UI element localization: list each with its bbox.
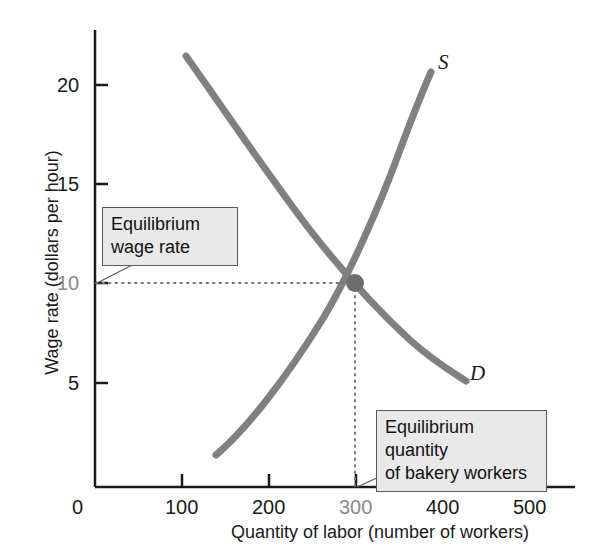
equilibrium-point-marker (346, 274, 364, 292)
x-tick-label-200: 200 (252, 496, 285, 519)
x-tick-label-500: 500 (513, 496, 546, 519)
supply-curve (216, 72, 431, 455)
x-tick-label-400: 400 (426, 496, 459, 519)
y-axis-title: Wage rate (dollars per hour) (42, 123, 63, 403)
supply-curve-label: S (438, 50, 449, 75)
labor-market-equilibrium-chart: 20 15 10 5 0 100 200 300 400 500 Wage ra… (0, 0, 591, 549)
demand-curve-label: D (470, 361, 485, 386)
y-tick-label-20: 20 (57, 74, 79, 97)
equilibrium-quantity-callout: Equilibrium quantity of bakery workers (376, 410, 547, 492)
x-tick-label-0: 0 (72, 496, 83, 519)
y-tick-label-5: 5 (68, 372, 79, 395)
x-axis-title: Quantity of labor (number of workers) (231, 522, 529, 543)
equilibrium-wage-callout: Equilibrium wage rate (102, 207, 238, 266)
x-tick-label-300: 300 (339, 496, 372, 519)
x-tick-label-100: 100 (165, 496, 198, 519)
